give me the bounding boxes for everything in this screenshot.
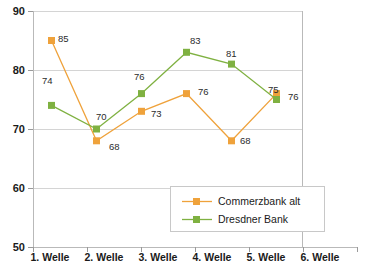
x-tick-label-6: 6. Welle [301,251,340,263]
line-chart: 90 80 70 60 50 1. Welle 2. Welle 3. Well… [0,0,371,264]
data-point-marker [228,61,235,68]
y-tick-label-90: 90 [13,5,25,17]
data-label-commerzbank-2: 68 [109,141,120,152]
data-point-marker [183,49,190,56]
data-point-marker [93,137,100,144]
x-tick-label-4: 4. Welle [193,251,232,263]
legend-label-dresdner: Dresdner Bank [218,213,289,225]
x-tick-label-2: 2. Welle [85,251,124,263]
data-label-dresdner-6: 75 [268,84,279,95]
data-label-commerzbank-4: 76 [198,86,209,97]
data-label-dresdner-4: 83 [190,35,201,46]
data-label-commerzbank-3: 73 [151,108,162,119]
y-tick-label-50: 50 [13,241,25,253]
data-label-commerzbank-6: 76 [288,91,299,102]
x-tick-label-1: 1. Welle [31,251,70,263]
x-tick-label-3: 3. Welle [139,251,178,263]
y-tick-label-80: 80 [13,64,25,76]
data-label-dresdner-5: 81 [226,48,237,59]
legend: Commerzbank alt Dresdner Bank [171,187,325,232]
y-tick-label-70: 70 [13,123,25,135]
data-point-marker [48,102,55,109]
legend-label-commerzbank: Commerzbank alt [218,195,300,207]
data-point-marker [138,90,145,97]
data-point-marker [138,108,145,115]
data-label-dresdner-1: 74 [42,75,53,86]
data-label-dresdner-3: 76 [134,71,145,82]
data-label-dresdner-2: 70 [96,111,107,122]
y-tick-label-60: 60 [13,182,25,194]
x-tick-label-5: 5. Welle [247,251,286,263]
data-point-marker [48,37,55,44]
legend-marker-commerzbank [193,198,200,205]
legend-marker-dresdner [193,216,200,223]
data-point-marker [93,126,100,133]
data-point-marker [273,96,280,103]
data-point-marker [183,90,190,97]
data-label-commerzbank-5: 68 [240,135,251,146]
chart-canvas: 90 80 70 60 50 1. Welle 2. Welle 3. Well… [0,0,371,264]
y-tickmarks-group [28,12,33,248]
data-point-marker [228,137,235,144]
data-label-commerzbank-1: 85 [58,33,69,44]
